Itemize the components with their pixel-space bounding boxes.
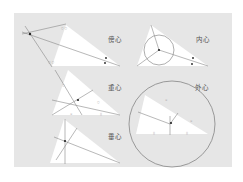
circumcenter-triangle (136, 95, 208, 134)
excenter-point (29, 33, 31, 35)
svg-text:○ ○: ○ ○ (48, 60, 55, 64)
svg-text:○: ○ (97, 100, 100, 104)
svg-text:||: || (100, 112, 102, 116)
circumcenter-diagram: || || × × (129, 81, 215, 167)
excenter-diagram: ○ ○ ○ ○ (22, 24, 120, 67)
orthocenter-triangle (50, 119, 120, 163)
svg-text:○ ○: ○ ○ (61, 26, 68, 30)
centroid-diagram: ○ ○ × || (52, 70, 120, 116)
svg-text:||: || (186, 131, 188, 135)
label-excenter: 傍心 (108, 34, 122, 44)
orthocenter-diagram (50, 119, 120, 164)
circumcenter-point (170, 122, 172, 124)
centroid-point (77, 99, 79, 101)
label-incenter: 内心 (196, 34, 210, 44)
orthocenter-point (64, 140, 66, 142)
svg-text:○: ○ (62, 83, 65, 87)
excenter-triangle (52, 25, 120, 66)
svg-text:×: × (190, 119, 193, 123)
label-centroid: 重心 (108, 82, 122, 92)
incenter-point (158, 49, 160, 51)
incenter-diagram (137, 25, 208, 66)
label-circumcenter: 外心 (195, 82, 209, 92)
centroid-triangle (52, 70, 120, 115)
label-orthocenter: 垂心 (108, 131, 122, 141)
svg-text:||: || (153, 131, 155, 135)
svg-text:×: × (165, 98, 168, 102)
